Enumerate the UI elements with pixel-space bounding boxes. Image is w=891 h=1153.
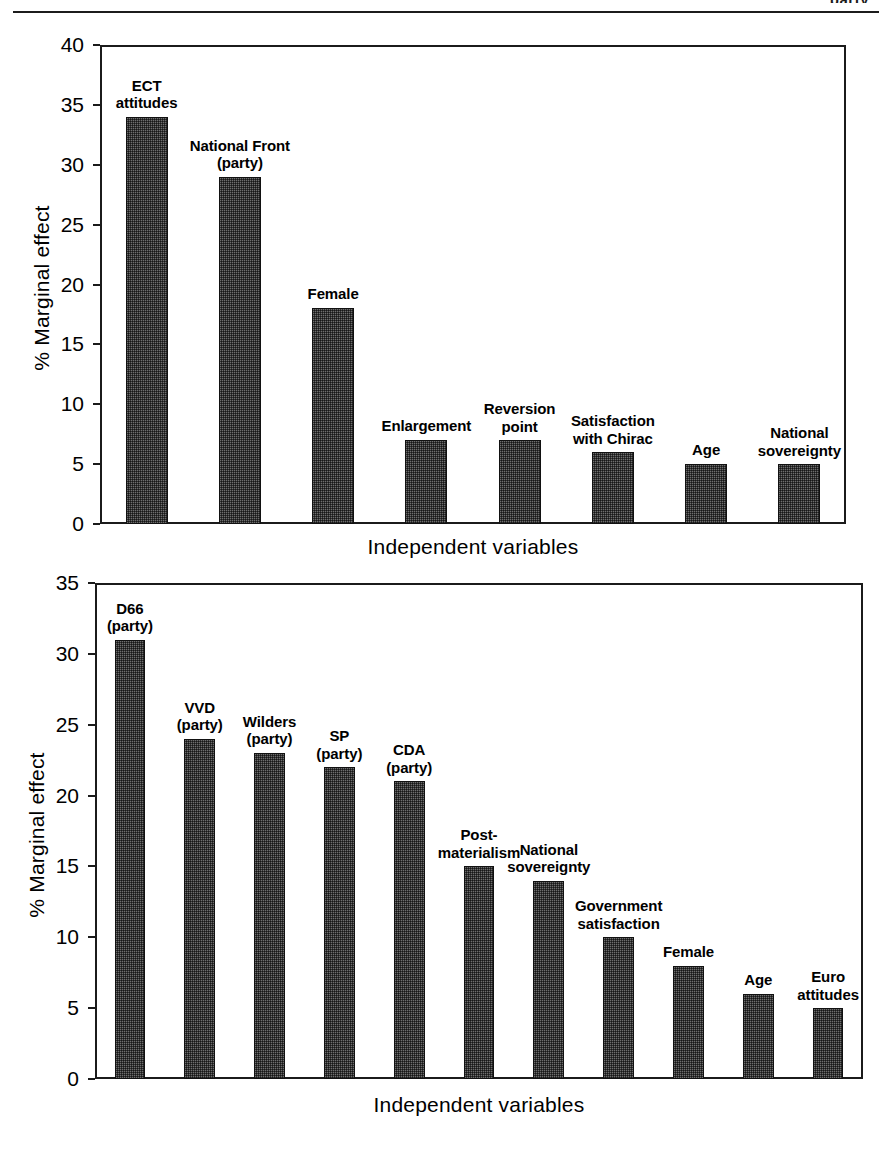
bar: [394, 781, 425, 1079]
bar-label: National sovereignty: [494, 841, 604, 876]
bar: [184, 739, 215, 1079]
bar: [673, 966, 704, 1079]
y-tick-mark: [88, 1078, 95, 1080]
bar: [533, 881, 564, 1079]
bar: [324, 767, 355, 1079]
bar: [254, 753, 285, 1079]
y-tick-label: 0: [31, 1068, 79, 1089]
y-tick-mark: [88, 936, 95, 938]
y-tick-mark: [88, 653, 95, 655]
bar-label: D66 (party): [75, 600, 185, 635]
y-tick-mark: [88, 724, 95, 726]
bar-label: Government satisfaction: [564, 897, 674, 932]
bar: [115, 640, 146, 1079]
bar: [464, 866, 495, 1079]
bar-chart-netherlands: % Marginal effect Independent variables …: [0, 0, 891, 1153]
y-tick-mark: [88, 1007, 95, 1009]
y-tick-label: 35: [31, 572, 79, 593]
y-tick-label: 10: [31, 926, 79, 947]
bar-label: Euro attitudes: [773, 968, 883, 1003]
bar: [603, 937, 634, 1079]
bar-label: CDA (party): [354, 741, 464, 776]
y-tick-label: 25: [31, 714, 79, 735]
y-tick-mark: [88, 795, 95, 797]
bar: [813, 1008, 844, 1079]
y-tick-label: 30: [31, 643, 79, 664]
y-axis-title-netherlands: % Marginal effect: [25, 735, 49, 935]
y-tick-mark: [88, 865, 95, 867]
y-tick-label: 15: [31, 855, 79, 876]
y-tick-label: 20: [31, 785, 79, 806]
y-tick-label: 5: [31, 997, 79, 1018]
bar: [743, 994, 774, 1079]
x-axis-title-netherlands: Independent variables: [306, 1093, 652, 1117]
bar-label: Female: [634, 943, 744, 960]
y-tick-mark: [88, 582, 95, 584]
